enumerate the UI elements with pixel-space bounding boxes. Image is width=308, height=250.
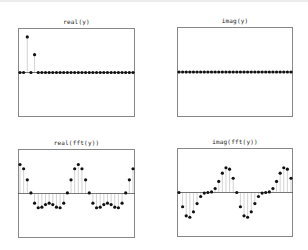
data-point-marker bbox=[279, 172, 282, 175]
stem-plot-canvas bbox=[177, 148, 293, 237]
data-point-marker bbox=[195, 70, 198, 73]
data-point-marker bbox=[239, 70, 242, 73]
plot-imag-y: imag(y) bbox=[177, 15, 293, 117]
data-point-marker bbox=[228, 168, 231, 171]
data-point-marker bbox=[271, 187, 274, 190]
data-point-marker bbox=[224, 70, 227, 73]
data-point-marker bbox=[192, 70, 195, 73]
data-point-marker bbox=[246, 70, 249, 73]
data-point-marker bbox=[253, 70, 256, 73]
data-point-marker bbox=[113, 71, 116, 74]
data-point-marker bbox=[18, 163, 21, 166]
data-point-marker bbox=[48, 202, 51, 205]
data-point-marker bbox=[113, 206, 116, 209]
data-point-marker bbox=[246, 216, 249, 219]
data-point-marker bbox=[177, 191, 180, 194]
data-point-marker bbox=[102, 203, 105, 206]
data-point-marker bbox=[77, 71, 80, 74]
data-point-marker bbox=[260, 70, 263, 73]
data-point-marker bbox=[22, 167, 25, 170]
data-point-marker bbox=[235, 70, 238, 73]
data-point-marker bbox=[73, 71, 76, 74]
data-point-marker bbox=[69, 71, 72, 74]
data-point-marker bbox=[117, 206, 120, 209]
data-point-marker bbox=[131, 167, 134, 170]
data-point-marker bbox=[29, 71, 32, 74]
data-point-marker bbox=[88, 191, 91, 194]
data-point-marker bbox=[268, 70, 271, 73]
data-point-marker bbox=[268, 190, 271, 193]
data-point-marker bbox=[84, 71, 87, 74]
data-point-marker bbox=[22, 71, 25, 74]
data-point-marker bbox=[250, 70, 253, 73]
data-point-marker bbox=[62, 71, 65, 74]
data-point-marker bbox=[99, 71, 102, 74]
data-point-marker bbox=[203, 70, 206, 73]
data-point-marker bbox=[88, 71, 91, 74]
data-point-marker bbox=[221, 172, 224, 175]
data-point-marker bbox=[232, 70, 235, 73]
data-point-marker bbox=[55, 71, 58, 74]
data-point-marker bbox=[80, 167, 83, 170]
plot-title: real(fft(y)) bbox=[18, 139, 135, 146]
data-point-marker bbox=[185, 214, 188, 217]
data-point-marker bbox=[33, 53, 36, 56]
plot-title: imag(y) bbox=[177, 17, 293, 24]
data-point-marker bbox=[29, 191, 32, 194]
data-point-marker bbox=[232, 177, 235, 180]
data-point-marker bbox=[257, 195, 260, 198]
data-point-marker bbox=[228, 70, 231, 73]
data-point-marker bbox=[106, 202, 109, 205]
data-point-marker bbox=[51, 203, 54, 206]
plot-real-fft-y: real(fft(y)) bbox=[18, 137, 135, 238]
data-point-marker bbox=[210, 70, 213, 73]
data-point-marker bbox=[199, 195, 202, 198]
data-point-marker bbox=[120, 202, 123, 205]
data-point-marker bbox=[40, 206, 43, 209]
data-point-marker bbox=[80, 71, 83, 74]
data-point-marker bbox=[210, 190, 213, 193]
data-point-marker bbox=[18, 71, 21, 74]
data-point-marker bbox=[224, 166, 227, 169]
data-point-marker bbox=[66, 191, 69, 194]
data-point-marker bbox=[239, 205, 242, 208]
data-point-marker bbox=[40, 71, 43, 74]
data-point-marker bbox=[48, 71, 51, 74]
plot-real-y: real(y) bbox=[18, 16, 135, 117]
data-point-marker bbox=[91, 71, 94, 74]
data-point-marker bbox=[106, 71, 109, 74]
data-point-marker bbox=[203, 191, 206, 194]
data-point-marker bbox=[37, 71, 40, 74]
data-point-marker bbox=[37, 206, 40, 209]
data-point-marker bbox=[177, 70, 180, 73]
data-point-marker bbox=[279, 70, 282, 73]
data-point-marker bbox=[214, 70, 217, 73]
stem-plot-canvas bbox=[18, 149, 135, 238]
data-point-marker bbox=[282, 166, 285, 169]
data-point-marker bbox=[286, 70, 289, 73]
data-point-marker bbox=[181, 205, 184, 208]
data-point-marker bbox=[58, 206, 61, 209]
data-point-marker bbox=[62, 202, 65, 205]
data-point-marker bbox=[217, 70, 220, 73]
data-point-marker bbox=[26, 35, 29, 38]
data-point-marker bbox=[110, 71, 113, 74]
data-point-marker bbox=[77, 163, 80, 166]
data-point-marker bbox=[286, 168, 289, 171]
data-point-marker bbox=[195, 202, 198, 205]
data-point-marker bbox=[214, 187, 217, 190]
data-point-marker bbox=[282, 70, 285, 73]
data-point-marker bbox=[264, 70, 267, 73]
data-point-marker bbox=[257, 70, 260, 73]
data-point-marker bbox=[128, 178, 131, 181]
data-point-marker bbox=[188, 216, 191, 219]
data-point-marker bbox=[44, 71, 47, 74]
data-point-marker bbox=[188, 70, 191, 73]
plot-title: imag(fft(y)) bbox=[177, 138, 293, 145]
data-point-marker bbox=[192, 210, 195, 213]
data-point-marker bbox=[181, 70, 184, 73]
data-point-marker bbox=[66, 71, 69, 74]
data-point-marker bbox=[264, 191, 267, 194]
data-point-marker bbox=[206, 191, 209, 194]
data-point-marker bbox=[253, 202, 256, 205]
